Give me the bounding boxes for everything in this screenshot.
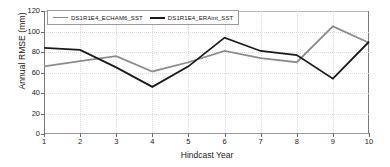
legend-label: DS1R1E4_ERAint_SST — [168, 15, 234, 21]
x-axis-label: Hindcast Year — [44, 150, 370, 160]
y-tick-label: 20 — [20, 110, 40, 118]
x-tick-label: 10 — [361, 137, 377, 146]
y-tick-label: 100 — [20, 28, 40, 36]
legend-line-swatch — [150, 17, 165, 19]
legend-entry[interactable]: DS1R1E4_ECHAM6_SST — [53, 15, 143, 21]
x-tick-label: 1 — [36, 137, 52, 146]
y-tick-label: 60 — [20, 69, 40, 77]
series-line — [44, 26, 369, 71]
y-tick-label: 40 — [20, 89, 40, 97]
plot-area — [44, 11, 369, 134]
x-tick-label: 2 — [72, 137, 88, 146]
y-tick-label: 120 — [20, 7, 40, 15]
legend-label: DS1R1E4_ECHAM6_SST — [71, 15, 143, 21]
x-tick-label: 5 — [180, 137, 196, 146]
series-lines — [44, 11, 369, 134]
x-tick-label: 9 — [325, 137, 341, 146]
x-tick-label: 8 — [289, 137, 305, 146]
rmse-line-chart: Annual RMSE (mm) 020406080100120 1234567… — [0, 0, 390, 167]
x-tick-label: 6 — [217, 137, 233, 146]
series-line — [44, 38, 369, 87]
x-tick-label: 4 — [144, 137, 160, 146]
legend-line-swatch — [53, 17, 68, 18]
chart-legend: DS1R1E4_ECHAM6_SSTDS1R1E4_ERAint_SST — [47, 10, 239, 25]
x-tick-label: 3 — [108, 137, 124, 146]
legend-entry[interactable]: DS1R1E4_ERAint_SST — [150, 15, 234, 21]
x-tick-label: 7 — [253, 137, 269, 146]
y-tick-label: 80 — [20, 48, 40, 56]
